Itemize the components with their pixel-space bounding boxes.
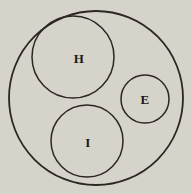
euler-diagram: H E I [0,0,192,194]
set-label-h: H [74,51,85,66]
euler-diagram-canvas: H E I [0,0,192,194]
paper-background [0,0,192,194]
set-label-i: I [85,135,91,150]
set-label-e: E [140,92,149,107]
